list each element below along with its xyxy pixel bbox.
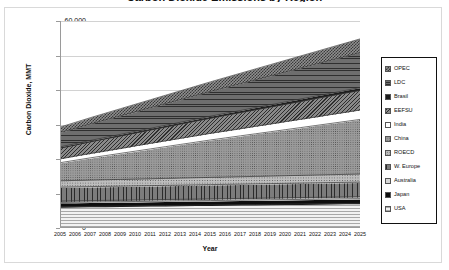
x-tick-label: 2019 (264, 231, 276, 237)
legend-label: OPEC (394, 66, 410, 72)
legend-label: W. Europe (394, 164, 420, 170)
brasil-swatch-icon (385, 94, 391, 100)
usa-swatch-icon (385, 206, 391, 212)
x-tick-label: 2005 (54, 231, 66, 237)
y-axis-label: Carbon Dioxide, MMT (25, 40, 32, 160)
legend-item-china[interactable]: China (385, 132, 433, 146)
w-europe-swatch-icon (385, 164, 391, 170)
x-tick-label: 2025 (354, 231, 366, 237)
legend-item-usa[interactable]: USA (385, 202, 433, 216)
legend-label: Brasil (394, 94, 408, 100)
x-tick-label: 2022 (309, 231, 321, 237)
china-swatch-icon (385, 136, 391, 142)
legend-label: India (394, 122, 406, 128)
x-tick-label: 2018 (249, 231, 261, 237)
x-tick-label: 2007 (84, 231, 96, 237)
legend-label: Australia (394, 178, 416, 184)
ldc-swatch-icon (385, 80, 391, 86)
legend-label: USA (394, 206, 406, 212)
x-axis-ticks: 2005200620072008200920102011201220132014… (60, 231, 360, 240)
x-tick-label: 2008 (99, 231, 111, 237)
gridline (61, 21, 360, 22)
opec-swatch-icon (385, 66, 391, 72)
x-axis-label: Year (60, 245, 360, 252)
x-tick-label: 2006 (69, 231, 81, 237)
chart-legend: OPECLDCBrasilEEFSUIndiaChinaROECDW. Euro… (381, 57, 437, 224)
x-tick-label: 2014 (189, 231, 201, 237)
legend-item-ldc[interactable]: LDC (385, 76, 433, 90)
chart-figure: Carbon Dioxide Emissions by Region Carbo… (0, 0, 449, 270)
x-tick-label: 2009 (114, 231, 126, 237)
x-tick-label: 2011 (144, 231, 156, 237)
legend-label: EEFSU (394, 108, 413, 114)
x-tick-label: 2015 (204, 231, 216, 237)
legend-label: Japan (394, 192, 409, 198)
x-tick-label: 2017 (234, 231, 246, 237)
legend-item-opec[interactable]: OPEC (385, 62, 433, 76)
legend-label: China (394, 136, 409, 142)
x-tick-label: 2013 (174, 231, 186, 237)
y-tick-mark (56, 228, 60, 229)
legend-label: LDC (394, 80, 405, 86)
legend-item-w-europe[interactable]: W. Europe (385, 160, 433, 174)
x-tick-label: 2020 (279, 231, 291, 237)
legend-item-eefsu[interactable]: EEFSU (385, 104, 433, 118)
legend-item-australia[interactable]: Australia (385, 174, 433, 188)
x-tick-label: 2023 (324, 231, 336, 237)
legend-item-india[interactable]: India (385, 118, 433, 132)
japan-swatch-icon (385, 192, 391, 198)
legend-label: ROECD (394, 150, 414, 156)
x-tick-label: 2024 (339, 231, 351, 237)
x-tick-label: 2012 (159, 231, 171, 237)
x-tick-label: 2010 (129, 231, 141, 237)
india-swatch-icon (385, 122, 391, 128)
roecd-swatch-icon (385, 150, 391, 156)
eefsu-swatch-icon (385, 108, 391, 114)
legend-item-roecd[interactable]: ROECD (385, 146, 433, 160)
x-tick-label: 2016 (219, 231, 231, 237)
australia-swatch-icon (385, 178, 391, 184)
legend-item-japan[interactable]: Japan (385, 188, 433, 202)
x-tick-label: 2021 (294, 231, 306, 237)
legend-item-brasil[interactable]: Brasil (385, 90, 433, 104)
plot-area (60, 21, 360, 228)
chart-title: Carbon Dioxide Emissions by Region (0, 0, 449, 2)
